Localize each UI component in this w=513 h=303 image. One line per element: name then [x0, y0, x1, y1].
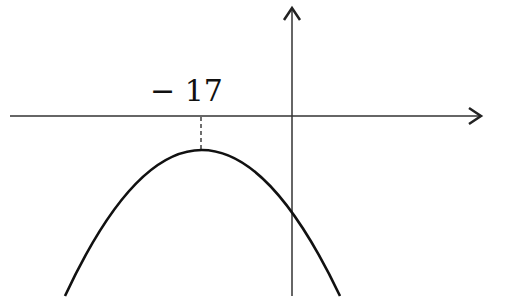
parabola-curve	[65, 150, 340, 296]
graph-canvas: − 17	[0, 0, 513, 303]
vertex-x-label: − 17	[150, 73, 223, 108]
